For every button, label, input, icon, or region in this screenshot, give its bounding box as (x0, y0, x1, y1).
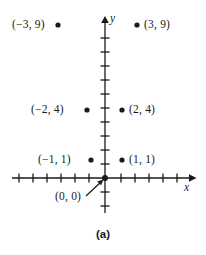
plot-canvas (0, 0, 206, 255)
y-axis-arrowhead (101, 16, 109, 23)
point-label-1-1: (1, 1) (129, 153, 155, 165)
point-label-neg3-9: (−3, 9) (12, 18, 45, 30)
point-label-2-4: (2, 4) (129, 103, 155, 115)
y-axis-label: y (110, 12, 115, 24)
point-label-0-0: (0, 0) (55, 190, 81, 202)
data-point-neg3-9 (55, 22, 60, 27)
data-point-3-9 (134, 22, 139, 27)
point-label-neg2-4: (−2, 4) (31, 103, 64, 115)
figure-caption: (a) (0, 228, 206, 240)
point-label-3-9: (3, 9) (144, 18, 170, 30)
data-point-2-4 (119, 107, 124, 112)
coordinate-plot-figure: (−3, 9) (3, 9) (−2, 4) (2, 4) (−1, 1) (1… (0, 0, 206, 255)
x-axis-label: x (184, 181, 189, 193)
data-point-neg2-4 (84, 107, 89, 112)
point-label-neg1-1: (−1, 1) (38, 153, 71, 165)
data-point-1-1 (119, 157, 124, 162)
x-axis-arrowhead (189, 174, 197, 182)
data-point-neg1-1 (88, 157, 93, 162)
